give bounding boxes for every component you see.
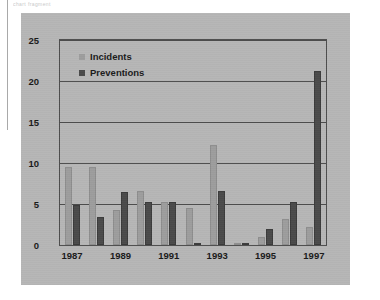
bar-incidents-1997: [306, 227, 313, 245]
x-axis-tick-label-1993: 1993: [195, 251, 239, 261]
bar-incidents-1987: [65, 167, 72, 245]
y-axis-tick-label-15: 15: [13, 118, 39, 127]
bar-preventions-1990: [145, 202, 152, 245]
page-margin-rule: [7, 0, 8, 130]
x-axis-tick-label-1995: 1995: [244, 251, 288, 261]
chart-bars-layer: [60, 40, 326, 245]
y-axis-tick-label-0: 0: [13, 241, 39, 250]
x-axis-tick-label-1989: 1989: [98, 251, 142, 261]
page-root: chart fragment Incidents Preventions 051…: [0, 0, 380, 300]
bar-incidents-1993: [210, 145, 217, 245]
chart-figure-panel: Incidents Preventions 051015202519871989…: [21, 13, 350, 285]
bar-incidents-1991: [161, 202, 168, 245]
bar-preventions-1996: [290, 202, 297, 245]
bar-preventions-1991: [169, 202, 176, 245]
x-axis-tick-label-1987: 1987: [50, 251, 94, 261]
bar-preventions-1989: [121, 192, 128, 245]
y-axis-tick-label-10: 10: [13, 159, 39, 168]
bar-incidents-1995: [258, 237, 265, 245]
bar-preventions-1987: [73, 205, 80, 245]
bar-preventions-1997: [314, 71, 321, 245]
y-axis-tick-label-25: 25: [13, 36, 39, 45]
bar-incidents-1988: [89, 167, 96, 245]
bar-incidents-1992: [186, 208, 193, 245]
x-axis-tick-label-1997: 1997: [292, 251, 336, 261]
page-header-text-fragment: chart fragment: [13, 1, 83, 8]
y-axis-tick-label-5: 5: [13, 200, 39, 209]
x-axis-tick-label-1991: 1991: [147, 251, 191, 261]
bar-incidents-1994: [234, 243, 241, 245]
bar-incidents-1990: [137, 191, 144, 245]
bar-incidents-1989: [113, 210, 120, 245]
bar-preventions-1988: [97, 217, 104, 245]
bar-preventions-1993: [218, 191, 225, 245]
y-axis-tick-label-20: 20: [13, 77, 39, 86]
bar-incidents-1996: [282, 219, 289, 245]
bar-preventions-1992: [194, 243, 201, 245]
bar-preventions-1994: [242, 243, 249, 245]
bar-preventions-1995: [266, 229, 273, 245]
